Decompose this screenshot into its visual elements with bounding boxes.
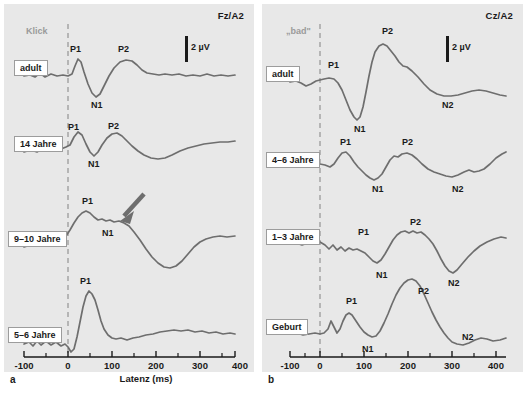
panel-a-axis-title: Latenz (ms) bbox=[120, 373, 173, 384]
agebox-5-6-jahre-fz[interactable]: 5–6 Jahre bbox=[8, 327, 62, 343]
trace-1-3-jahre-cz bbox=[290, 231, 506, 273]
label-n1-adult-cz: N1 bbox=[354, 124, 366, 134]
trace-adult-fz bbox=[24, 59, 235, 97]
panel-b-axis bbox=[290, 351, 506, 357]
label-p2-46-cz: P2 bbox=[402, 137, 413, 147]
erp-figure: Fz/A2 Klick 2 µV bbox=[0, 0, 527, 416]
trace-geburt-cz bbox=[290, 279, 506, 345]
label-n2-adult-cz: N2 bbox=[442, 100, 454, 110]
label-p1-geburt-cz: P1 bbox=[346, 296, 357, 306]
label-p2-13-cz: P2 bbox=[410, 217, 421, 227]
label-n1-adult-fz: N1 bbox=[91, 100, 103, 110]
panel-letter-a: a bbox=[10, 374, 16, 385]
label-n2-13-cz: N2 bbox=[448, 278, 460, 288]
panel-a-tick-100: 100 bbox=[104, 360, 120, 371]
panel-b-tick--100: -100 bbox=[280, 360, 299, 371]
panel-b-tick-100: 100 bbox=[356, 360, 372, 371]
label-n2-geburt-cz: N2 bbox=[462, 332, 474, 342]
label-n1-910-fz: N1 bbox=[102, 228, 114, 238]
panel-a-axis bbox=[24, 351, 235, 357]
trace-adult-cz bbox=[290, 44, 506, 120]
panel-b-tick-400: 400 bbox=[488, 360, 504, 371]
label-n1-geburt-cz: N1 bbox=[362, 344, 374, 354]
label-p2-geburt-cz: P2 bbox=[418, 286, 429, 296]
label-n1-13-cz: N1 bbox=[376, 270, 388, 280]
agebox-geburt-cz[interactable]: Geburt bbox=[266, 319, 308, 335]
label-n1-14-fz: N1 bbox=[88, 159, 100, 169]
label-p1-56-fz: P1 bbox=[80, 276, 91, 286]
agebox-adult-fz[interactable]: adult bbox=[14, 60, 48, 76]
panel-b: Cz/A2 „bad" 2 µV bbox=[262, 4, 523, 372]
agebox-9-10-jahre-fz[interactable]: 9–10 Jahre bbox=[8, 231, 67, 247]
label-p2-adult-fz: P2 bbox=[118, 44, 129, 54]
panel-b-tick-0: 0 bbox=[317, 360, 322, 371]
panel-b-traces bbox=[262, 4, 523, 372]
panel-b-tick-200: 200 bbox=[400, 360, 416, 371]
label-p1-13-cz: P1 bbox=[358, 227, 369, 237]
agebox-14-jahre-fz[interactable]: 14 Jahre bbox=[14, 136, 63, 152]
label-p2-14-fz: P2 bbox=[108, 121, 119, 131]
label-n2-46-cz: N2 bbox=[452, 184, 464, 194]
panel-b-tick-300: 300 bbox=[444, 360, 460, 371]
agebox-4-6-jahre-cz[interactable]: 4–6 Jahre bbox=[266, 152, 320, 168]
trace-4-6-jahre-cz bbox=[290, 152, 506, 180]
panel-a-tick--100: -100 bbox=[14, 360, 33, 371]
panel-a: Fz/A2 Klick 2 µV bbox=[4, 4, 254, 372]
agebox-adult-cz[interactable]: adult bbox=[266, 66, 300, 82]
agebox-1-3-jahre-cz[interactable]: 1–3 Jahre bbox=[266, 229, 320, 245]
panel-a-tick-0: 0 bbox=[65, 360, 70, 371]
panel-a-tick-200: 200 bbox=[148, 360, 164, 371]
label-p1-910-fz: P1 bbox=[82, 196, 93, 206]
label-p1-46-cz: P1 bbox=[340, 137, 351, 147]
panel-letter-b: b bbox=[268, 374, 274, 385]
label-p1-adult-cz: P1 bbox=[328, 60, 339, 70]
panel-a-tick-400: 400 bbox=[232, 360, 248, 371]
panel-a-tick-300: 300 bbox=[192, 360, 208, 371]
label-p1-adult-fz: P1 bbox=[70, 44, 81, 54]
label-n1-46-cz: N1 bbox=[372, 184, 384, 194]
label-p1-14-fz: P1 bbox=[68, 122, 79, 132]
annotation-arrow bbox=[120, 194, 144, 224]
label-p2-adult-cz: P2 bbox=[382, 26, 393, 36]
